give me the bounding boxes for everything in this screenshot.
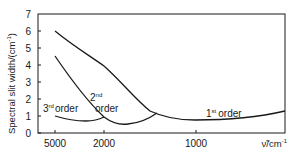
y-tick-4: 4 xyxy=(25,60,31,71)
x-tick-2000: 2000 xyxy=(93,138,116,149)
x-tick-1000: 1000 xyxy=(185,138,208,149)
x-tick-5000: 5000 xyxy=(44,138,67,149)
y-tick-2: 2 xyxy=(25,94,31,105)
y-tick-5: 5 xyxy=(25,43,31,54)
curve-1st-order xyxy=(55,31,285,120)
y-tick-7: 7 xyxy=(25,9,31,20)
y-tick-3: 3 xyxy=(25,77,31,88)
y-axis-title: Spectral slit width/(cm-1) xyxy=(6,33,17,134)
y-tick-1: 1 xyxy=(25,111,31,122)
chart: 0 1 2 3 4 5 6 7 5000 2000 1000 ν̃/cm-1 S… xyxy=(0,0,302,153)
label-2nd-order-num: 2nd xyxy=(90,92,102,103)
y-tick-6: 6 xyxy=(25,26,31,37)
x-axis-tick-labels: 5000 2000 1000 xyxy=(44,138,208,149)
curve-3rd-order xyxy=(55,116,104,121)
label-2nd-order-word: order xyxy=(95,103,119,114)
label-3rd-order: 3rdorder xyxy=(43,103,79,114)
x-axis-title: ν̃/cm-1 xyxy=(262,138,288,149)
curve-2nd-order xyxy=(55,56,157,124)
y-tick-0: 0 xyxy=(25,128,31,139)
label-1st-order: 1storder xyxy=(206,108,242,119)
y-axis-tick-labels: 0 1 2 3 4 5 6 7 xyxy=(25,9,31,139)
